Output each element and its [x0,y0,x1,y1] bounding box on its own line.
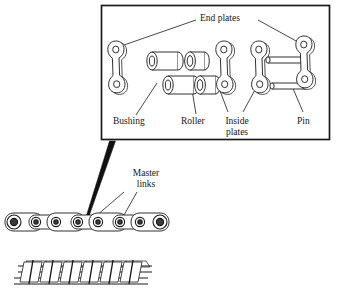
component-roller-upper [185,52,210,70]
chain-single-strand [5,213,169,231]
component-bushing-upper [147,52,183,70]
label-bushing: Bushing [113,116,145,127]
label-roller: Roller [181,116,205,127]
component-pin-upper [266,57,303,63]
label-master-links-line2: links [124,179,168,190]
callout-pointer-wedge [86,141,116,219]
chain-perspective [14,260,152,284]
label-pin: Pin [297,116,310,127]
component-bushing-lower [163,76,199,94]
label-inside-plates-line2: plates [219,127,255,138]
label-inside-plates-line1: Inside [219,116,255,127]
label-end-plates: End plates [200,13,240,24]
diagram-svg [0,0,338,293]
leader-master-links [96,192,137,216]
figure-canvas: End plates Bushing Roller Inside plates … [0,0,338,293]
label-master-links-line1: Master [124,168,168,179]
